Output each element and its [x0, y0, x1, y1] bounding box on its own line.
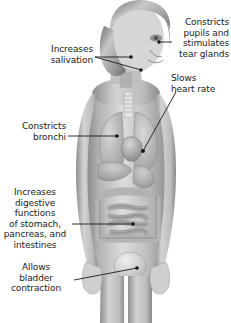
label-bronchi: Constricts bronchi — [0, 121, 66, 142]
bladder — [114, 252, 146, 280]
label-pupils-tear-glands: Constricts pupils and stimulates tear gl… — [150, 17, 229, 59]
label-bladder: Allows bladder contraction — [0, 262, 72, 294]
label-digestive: Increases digestive functions of stomach… — [0, 187, 70, 251]
anatomy-diagram: Constricts pupils and stimulates tear gl… — [0, 0, 231, 323]
label-salivation: Increases salivation — [16, 44, 93, 65]
label-heart-rate: Slows heart rate — [171, 73, 231, 94]
